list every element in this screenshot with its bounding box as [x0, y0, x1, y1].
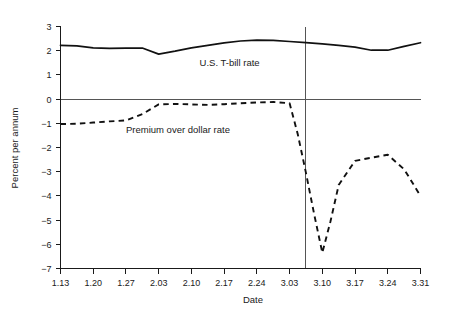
y-tick-label-4: −1 [41, 119, 51, 129]
x-tick-label-1: 1.20 [84, 278, 102, 288]
x-tick-label-4: 2.10 [183, 278, 201, 288]
x-tick-label-3: 2.03 [150, 278, 168, 288]
x-tick-label-0: 1.13 [52, 278, 70, 288]
x-tick-label-9: 3.17 [346, 278, 364, 288]
y-tick-label-1: 2 [46, 46, 51, 56]
y-tick-label-7: −4 [41, 191, 51, 201]
y-tick-label-8: −5 [41, 216, 51, 226]
y-tick-label-3: 0 [46, 95, 51, 105]
x-tick-label-10: 3.24 [379, 278, 397, 288]
x-axis [61, 269, 421, 274]
series-label-1: Premium over dollar rate [126, 124, 230, 135]
x-tick-label-5: 2.17 [215, 278, 233, 288]
y-axis [56, 27, 61, 269]
series-annotations: U.S. T-bill ratePremium over dollar rate [126, 57, 260, 135]
y-tick-label-10: −7 [41, 264, 51, 274]
data-series [61, 40, 421, 253]
x-tick-label-8: 3.10 [314, 278, 332, 288]
y-axis-title: Percent per annum [9, 108, 20, 189]
x-tick-labels: 1.131.201.272.032.102.172.243.033.103.17… [52, 278, 430, 288]
x-tick-label-2: 1.27 [117, 278, 135, 288]
x-tick-label-7: 3.03 [281, 278, 299, 288]
series-line-1 [61, 102, 421, 253]
x-axis-title: Date [243, 294, 263, 305]
y-tick-label-0: 3 [46, 22, 51, 32]
chart-figure: 3210−1−2−3−4−5−6−7 1.131.201.272.032.102… [0, 0, 451, 327]
y-tick-labels: 3210−1−2−3−4−5−6−7 [41, 22, 51, 274]
series-label-0: U.S. T-bill rate [200, 57, 260, 68]
x-tick-label-6: 2.24 [248, 278, 266, 288]
x-tick-label-11: 3.31 [412, 278, 430, 288]
y-tick-label-5: −2 [41, 143, 51, 153]
chart-canvas: 3210−1−2−3−4−5−6−7 1.131.201.272.032.102… [0, 0, 451, 327]
series-line-0 [61, 40, 421, 54]
y-tick-label-9: −6 [41, 240, 51, 250]
y-tick-label-6: −3 [41, 167, 51, 177]
y-tick-label-2: 1 [46, 70, 51, 80]
